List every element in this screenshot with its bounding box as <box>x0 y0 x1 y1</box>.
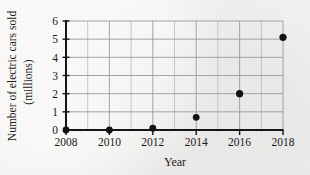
y-tick-label: 6 <box>52 15 58 27</box>
y-tick-label: 1 <box>52 106 58 118</box>
y-tick-label: 4 <box>52 52 58 64</box>
x-tick-label: 2008 <box>55 136 78 148</box>
chart-container: 6 5 4 3 2 1 0 2008 2010 2012 2014 2016 2… <box>0 0 310 175</box>
y-axis-title-line2: (millions) <box>22 59 35 105</box>
y-axis-tick-labels: 6 5 4 3 2 1 0 <box>52 15 58 136</box>
data-point <box>106 127 113 134</box>
data-point <box>63 127 70 134</box>
x-axis-tick-labels: 2008 2010 2012 2014 2016 2018 <box>55 136 295 148</box>
y-tick-label: 0 <box>52 124 58 136</box>
y-tick-label: 2 <box>52 88 58 100</box>
x-tick-label: 2010 <box>98 136 121 148</box>
scatter-plot: 6 5 4 3 2 1 0 2008 2010 2012 2014 2016 2… <box>0 0 310 175</box>
y-tick-label: 5 <box>52 33 58 45</box>
y-axis-title-line1: Number of electric cars sold <box>6 11 18 142</box>
data-point <box>236 90 243 97</box>
x-tick-label: 2016 <box>228 136 251 148</box>
x-tick-label: 2012 <box>141 136 164 148</box>
x-tick-label: 2018 <box>272 136 295 148</box>
data-point <box>149 125 156 132</box>
y-axis-title: Number of electric cars sold (millions) <box>6 11 35 142</box>
x-tick-label: 2014 <box>185 136 208 148</box>
data-point <box>279 34 286 41</box>
x-axis-title: Year <box>164 155 186 169</box>
data-point <box>193 114 200 121</box>
y-tick-label: 3 <box>52 70 58 82</box>
